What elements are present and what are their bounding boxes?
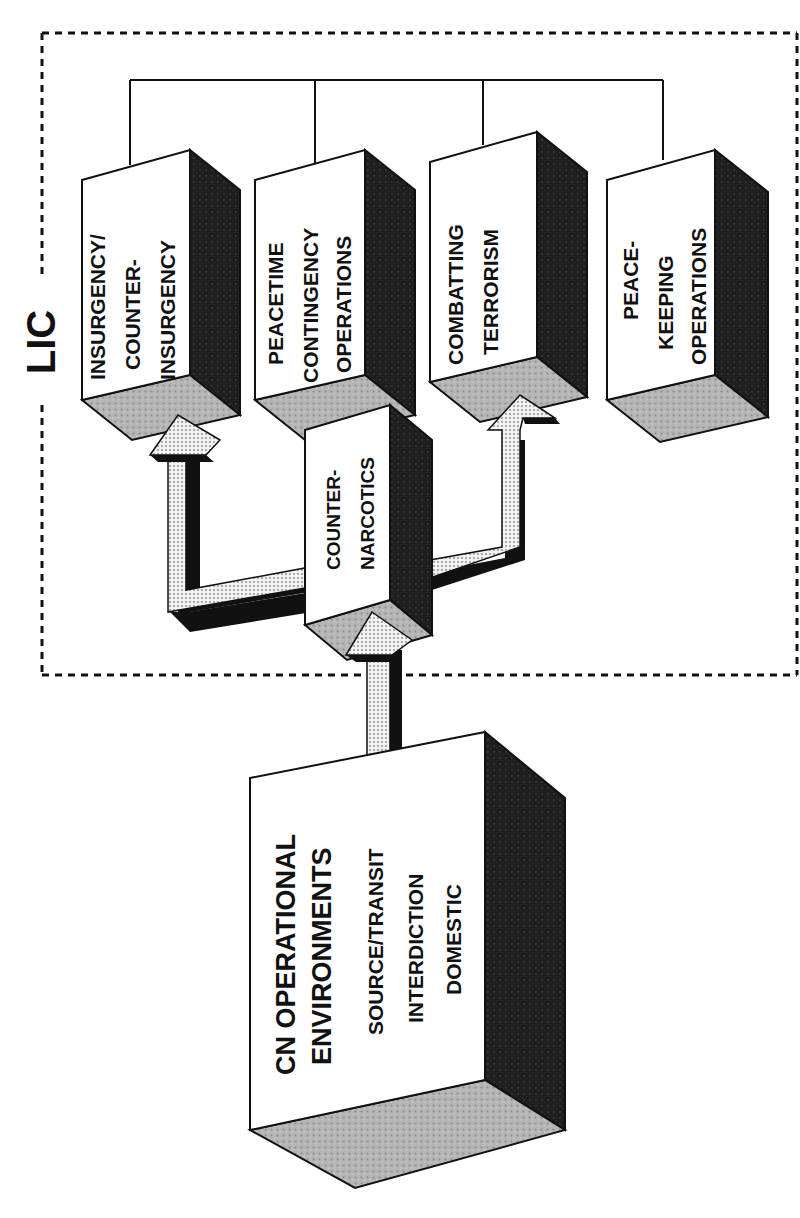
box-combatting-terrorism: COMBATTING TERRORISM <box>430 132 587 422</box>
box-peacetime-contingency: PEACETIME CONTINGENCY OPERATIONS <box>255 150 415 440</box>
box-insurgency: INSURGENCY/ COUNTER- INSURGENCY <box>82 150 240 440</box>
box-cn-operational-environments: CN OPERATIONAL ENVIRONMENTS SOURCE/TRANS… <box>250 732 565 1188</box>
arrow-to-terrorism <box>430 395 560 590</box>
lic-label: LIC <box>19 310 63 374</box>
arrow-to-insurgency <box>150 415 312 632</box>
lic-diagram: LIC INSURGENCY/ COUNTER- INSURGENCY PEAC… <box>0 0 800 1218</box>
box-peacekeeping: PEACE- KEEPING OPERATIONS <box>607 150 768 442</box>
connector-tree <box>130 80 663 165</box>
svg-text:PEACETIME CONTINGENCY: PEACETIME CONTINGENCY OPERATIONS <box>264 222 355 383</box>
